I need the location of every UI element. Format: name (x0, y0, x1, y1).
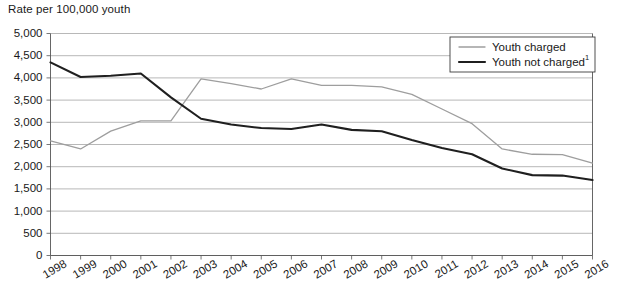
series-line-youth-charged (51, 79, 593, 163)
y-tick-label: 2,000 (14, 160, 43, 172)
legend-label-youth-charged: Youth charged (492, 41, 566, 53)
x-tick-label: 1998 (40, 258, 68, 281)
chart-figure: Rate per 100,000 youth 05001,0001,5002,0… (0, 0, 617, 286)
x-tick-label: 1999 (71, 258, 99, 281)
y-tick-label: 500 (23, 227, 42, 239)
y-tick-label: 3,000 (14, 116, 43, 128)
x-tick-label: 2014 (522, 257, 551, 280)
x-tick-label: 2010 (402, 258, 430, 281)
y-tick-label: 4,500 (14, 49, 43, 61)
y-axis-tick-labels: 05001,0001,5002,0002,5003,0003,5004,0004… (14, 27, 43, 261)
x-tick-label: 2003 (191, 258, 219, 281)
x-tick-label: 2011 (433, 258, 460, 281)
x-tick-label: 2000 (101, 258, 129, 281)
x-tick-label: 2002 (161, 258, 189, 281)
y-tick-label: 0 (36, 249, 42, 261)
y-tick-label: 4,000 (14, 71, 43, 83)
legend-label-youth-not-charged: Youth not charged1 (492, 53, 589, 68)
y-tick-label: 5,000 (14, 27, 43, 39)
line-chart-plot: 05001,0001,5002,0002,5003,0003,5004,0004… (0, 0, 617, 286)
y-tick-label: 1,500 (14, 182, 43, 194)
x-tick-label: 2007 (311, 258, 339, 281)
y-tick-label: 1,000 (14, 205, 43, 217)
x-tick-label: 2005 (251, 258, 279, 281)
x-tick-label: 2013 (492, 258, 520, 281)
y-axis-tick-marks (47, 34, 51, 256)
x-tick-label: 2012 (462, 258, 490, 281)
x-tick-label: 2004 (221, 257, 250, 280)
series-line-youth-not-charged (51, 62, 593, 180)
data-series (51, 62, 593, 180)
x-tick-label: 2001 (131, 258, 159, 281)
x-tick-label: 2016 (582, 258, 610, 281)
legend-footnote-marker: 1 (585, 53, 589, 62)
x-axis-tick-labels: 1998199920002001200220032004200520062007… (40, 257, 610, 280)
y-tick-label: 2,500 (14, 138, 43, 150)
x-tick-label: 2009 (372, 258, 400, 281)
x-tick-label: 2015 (552, 258, 580, 281)
chart-legend: Youth chargedYouth not charged1 (450, 37, 595, 72)
y-tick-label: 3,500 (14, 94, 43, 106)
x-tick-label: 2006 (281, 258, 309, 281)
x-tick-label: 2008 (342, 258, 370, 281)
